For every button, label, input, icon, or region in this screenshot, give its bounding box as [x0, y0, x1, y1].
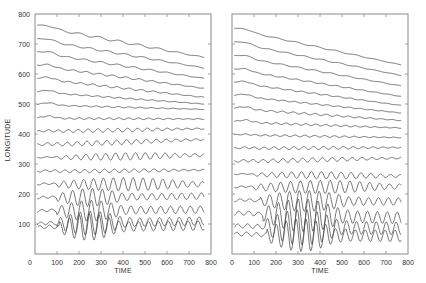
right-panel: 0 100 200 300 400 500 600 700 800 TIME — [230, 14, 414, 274]
y-tick-label: 700 — [18, 41, 30, 48]
y-axis-title: LONGITUDE — [4, 119, 11, 162]
longitude-trace — [234, 120, 401, 129]
x-tick-label: 700 — [380, 259, 392, 266]
x-tick-label: 100 — [51, 259, 63, 266]
longitude-trace — [234, 28, 401, 65]
longitude-trace — [234, 219, 401, 252]
longitude-trace — [37, 103, 204, 110]
y-tick-label: 200 — [18, 191, 30, 198]
x-tick-label: 800 — [205, 259, 217, 266]
x-tick-label: 500 — [139, 259, 151, 266]
longitude-trace — [37, 169, 204, 173]
longitude-trace — [37, 116, 204, 120]
left-x-axis-title: TIME — [114, 267, 132, 274]
longitude-trace — [37, 153, 204, 161]
longitude-trace — [234, 147, 401, 150]
right-x-axis-title: TIME — [311, 267, 329, 274]
x-tick-label: 700 — [183, 259, 195, 266]
longitude-trace — [234, 94, 401, 113]
longitude-trace — [37, 139, 204, 146]
y-tick-label: 600 — [18, 71, 30, 78]
y-tick-label: 400 — [18, 131, 30, 138]
longitude-trace — [234, 180, 401, 193]
x-tick-label: 400 — [117, 259, 129, 266]
x-tick-label: 600 — [161, 259, 173, 266]
y-tick-label: 300 — [18, 161, 30, 168]
right-plot-frame — [232, 14, 408, 254]
longitude-trace — [37, 25, 204, 58]
longitude-trace — [234, 134, 401, 138]
figure: LONGITUDE 800 700 600 500 400 300 200 10… — [0, 0, 426, 283]
left-traces — [37, 25, 204, 240]
longitude-trace — [37, 128, 204, 132]
longitude-trace — [234, 172, 401, 179]
left-x-tick-labels: 0 100 200 300 400 500 600 700 800 — [28, 259, 217, 266]
x-tick-label: 800 — [402, 259, 414, 266]
x-tick-label: 100 — [248, 259, 260, 266]
longitude-trace — [234, 107, 401, 121]
x-tick-label: 0 — [28, 259, 32, 266]
longitude-trace — [234, 81, 401, 105]
y-tick-label: 100 — [18, 221, 30, 228]
longitude-trace — [37, 90, 204, 104]
longitude-trace — [37, 211, 204, 235]
longitude-trace — [234, 157, 401, 162]
longitude-trace — [37, 64, 204, 88]
right-x-tick-labels: 0 100 200 300 400 500 600 700 800 — [230, 259, 414, 266]
y-tick-label: 500 — [18, 101, 30, 108]
x-tick-label: 0 — [230, 259, 234, 266]
longitude-trace — [37, 52, 204, 79]
left-y-tick-labels: 800 700 600 500 400 300 200 100 — [18, 11, 30, 228]
longitude-trace — [37, 178, 204, 191]
longitude-trace — [37, 39, 204, 69]
longitude-trace — [37, 188, 204, 206]
longitude-trace — [234, 68, 401, 96]
longitude-trace — [37, 77, 204, 97]
x-tick-label: 600 — [358, 259, 370, 266]
left-panel: 800 700 600 500 400 300 200 100 0 100 20… — [18, 11, 217, 275]
x-tick-label: 200 — [270, 259, 282, 266]
x-tick-label: 200 — [73, 259, 85, 266]
x-tick-label: 300 — [95, 259, 107, 266]
x-tick-label: 300 — [292, 259, 304, 266]
x-tick-label: 500 — [336, 259, 348, 266]
y-tick-label: 800 — [18, 11, 30, 18]
right-traces — [234, 28, 401, 251]
right-ticks — [232, 14, 408, 254]
x-tick-label: 400 — [314, 259, 326, 266]
